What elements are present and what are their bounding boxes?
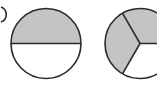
fraction-circle-thirds [105,9,157,79]
fraction-diagram [0,0,157,95]
shaded-half [11,8,81,43]
fraction-circle-halves [11,8,81,78]
partial-circle-fragment [1,7,6,22]
